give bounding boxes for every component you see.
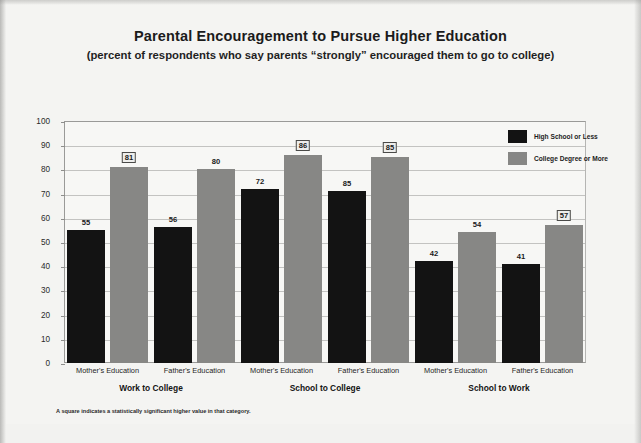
bar-value: 41 — [517, 252, 525, 261]
bar — [415, 261, 453, 363]
y-tick-label: 80 — [22, 165, 50, 174]
x-group-label: School to Work — [468, 383, 529, 393]
bar — [458, 232, 496, 363]
bar-value-significant: 81 — [122, 152, 136, 163]
y-tick-label: 30 — [22, 286, 50, 295]
legend-item: College Degree or More — [508, 152, 608, 165]
bar-value: 72 — [256, 177, 264, 186]
bar — [154, 227, 192, 363]
bar — [67, 230, 105, 363]
chart-title: Parental Encouragement to Pursue Higher … — [6, 28, 635, 44]
x-group-label: School to College — [290, 383, 361, 393]
bar-value: 56 — [169, 215, 177, 224]
y-tick-label: 90 — [22, 141, 50, 150]
legend-swatch-icon — [508, 130, 527, 143]
chart-legend: High School or LessCollege Degree or Mor… — [508, 130, 608, 174]
bar — [502, 264, 540, 363]
x-axis-labels: Mother's EducationFather's EducationMoth… — [64, 366, 586, 412]
y-tick-label: 50 — [22, 238, 50, 247]
bar — [197, 169, 235, 363]
x-category-label: Mother's Education — [424, 366, 487, 375]
bar-value: 55 — [82, 218, 90, 227]
legend-label: High School or Less — [534, 133, 598, 140]
bar-value: 80 — [212, 157, 220, 166]
y-tick-label: 10 — [22, 334, 50, 343]
title-block: Parental Encouragement to Pursue Higher … — [6, 28, 635, 61]
x-category-label: Mother's Education — [250, 366, 313, 375]
y-tick-label: 70 — [22, 189, 50, 198]
bar-value: 85 — [343, 179, 351, 188]
y-tick-label: 0 — [22, 359, 50, 368]
bar — [241, 189, 279, 363]
chart-sheet: Parental Encouragement to Pursue Higher … — [6, 4, 635, 424]
y-tick-label: 20 — [22, 310, 50, 319]
y-tick-mark — [61, 364, 65, 365]
x-group-label: Work to College — [119, 383, 183, 393]
bar — [545, 225, 583, 363]
x-category-label: Father's Education — [164, 366, 225, 375]
legend-swatch-icon — [508, 152, 527, 165]
bar-value: 54 — [473, 220, 481, 229]
bar-value-significant: 85 — [383, 142, 397, 153]
bar — [284, 155, 322, 363]
y-tick-label: 60 — [22, 213, 50, 222]
chart-page: Parental Encouragement to Pursue Higher … — [0, 0, 641, 443]
y-tick-label: 100 — [22, 117, 50, 126]
y-tick-label: 40 — [22, 262, 50, 271]
chart-subtitle: (percent of respondents who say parents … — [6, 49, 635, 61]
legend-label: College Degree or More — [534, 155, 608, 162]
bar — [371, 157, 409, 363]
x-category-label: Father's Education — [512, 366, 573, 375]
bar-value: 42 — [430, 249, 438, 258]
bar — [110, 167, 148, 363]
bar-value-significant: 86 — [296, 140, 310, 151]
bar-value-significant: 57 — [557, 210, 571, 221]
x-category-label: Father's Education — [338, 366, 399, 375]
x-category-label: Mother's Education — [76, 366, 139, 375]
legend-item: High School or Less — [508, 130, 608, 143]
bar — [328, 191, 366, 363]
footnote-text: A square indicates a statistically signi… — [56, 408, 251, 414]
